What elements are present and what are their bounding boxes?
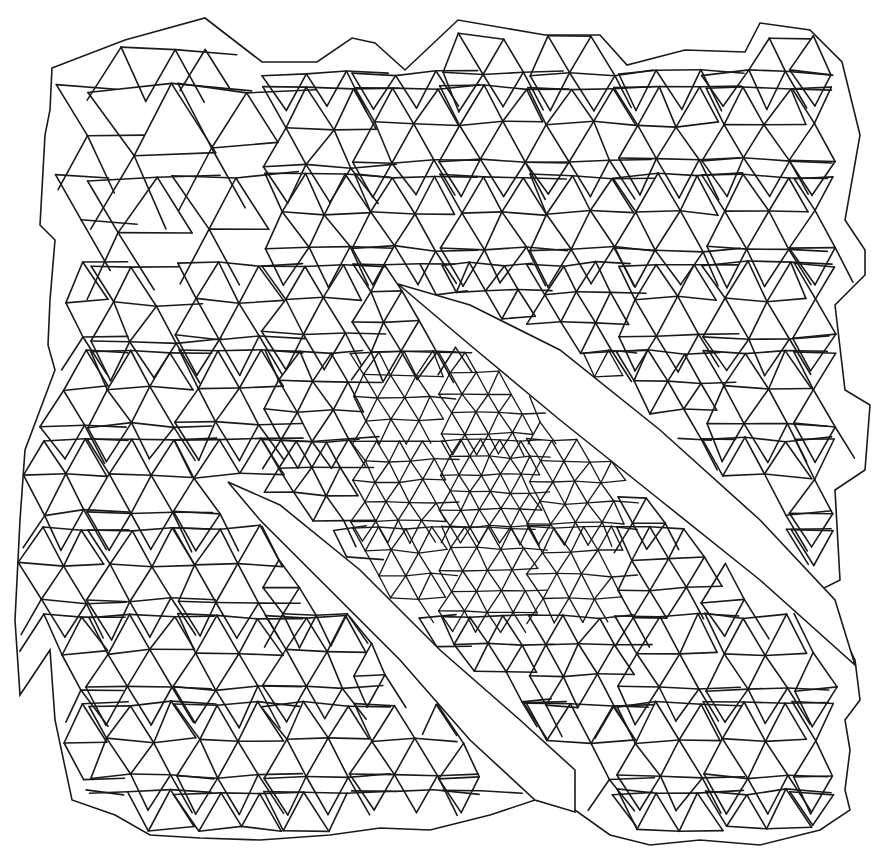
mesh-edges — [18, 33, 854, 831]
mesh-diagram — [0, 0, 883, 857]
